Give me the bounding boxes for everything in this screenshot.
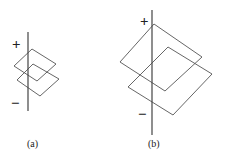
panel-b: + − (b) <box>120 10 212 150</box>
diagram-canvas: + − (a) + − (b) <box>0 0 225 160</box>
plus-sign-a: + <box>12 36 21 52</box>
caption-a: (a) <box>27 138 38 150</box>
minus-sign-a: − <box>11 95 20 111</box>
caption-b: (b) <box>148 138 160 150</box>
upper-plane-b <box>120 24 202 91</box>
lower-plane-b <box>128 47 212 115</box>
minus-sign-b: − <box>138 106 147 122</box>
panel-a: + − (a) <box>11 32 59 150</box>
plus-sign-b: + <box>140 13 149 29</box>
